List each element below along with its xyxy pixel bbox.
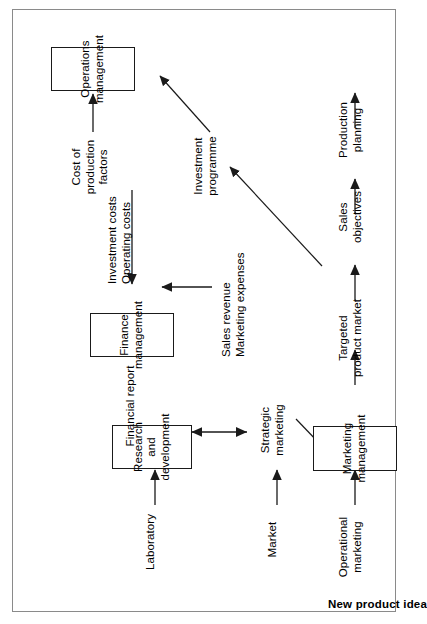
label-sales-objectives: Sales objectives xyxy=(337,179,364,255)
label-market: Market xyxy=(266,507,280,572)
page-frame: New product idea Operations management R… xyxy=(12,9,396,612)
node-operations-management-label: Operations management xyxy=(79,35,106,103)
diagram-title: New product idea xyxy=(328,598,427,610)
label-production-planning: Production planning xyxy=(337,88,364,172)
label-financial-report: Financial report xyxy=(124,356,138,456)
label-investment-programme: Investment programme xyxy=(192,120,219,212)
label-operational-marketing: Operational marketing xyxy=(337,506,364,588)
label-cost-of-production-factors: Cost of production factors xyxy=(70,131,111,203)
node-finance-management[interactable]: Finance management xyxy=(90,313,174,357)
node-marketing-management[interactable]: Marketing management xyxy=(313,426,397,471)
node-marketing-management-label: Marketing management xyxy=(341,414,368,482)
label-laboratory: Laboratory xyxy=(144,507,158,577)
node-operations-management[interactable]: Operations management xyxy=(51,47,135,91)
label-investment-operating-costs: Investment costs Operating costs xyxy=(106,154,133,284)
label-targeted-product-market: Targeted product market xyxy=(337,292,364,384)
diagram-canvas: New product idea Operations management R… xyxy=(32,22,402,622)
label-sales-revenue-marketing-expenses: Sales revenue Marketing expenses xyxy=(220,209,247,357)
label-strategic-marketing: Strategic marketing xyxy=(259,390,286,470)
node-research-and-development-label: Research and development xyxy=(132,414,173,481)
